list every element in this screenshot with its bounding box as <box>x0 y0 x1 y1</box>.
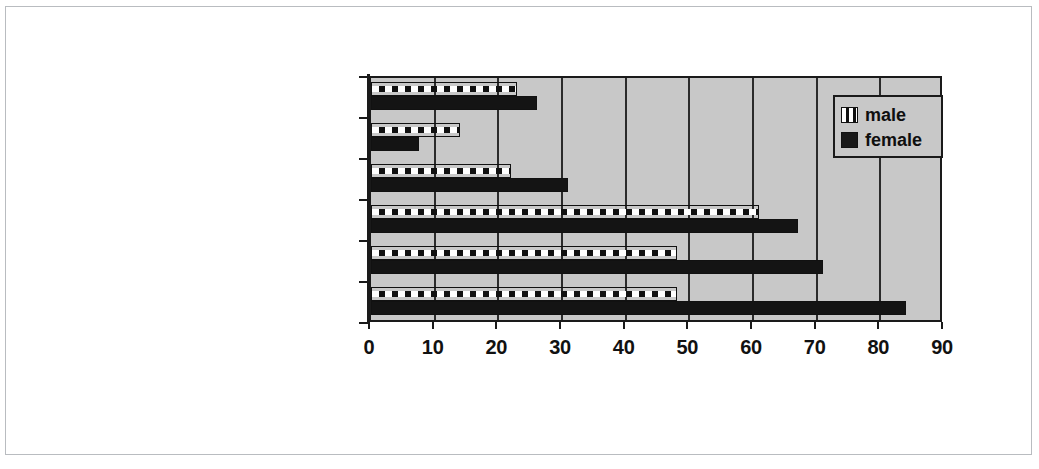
bar-male-5 <box>371 287 677 301</box>
x-tick-label-60: 60 <box>740 336 762 359</box>
y-tick-3 <box>359 199 369 201</box>
legend-swatch-female-icon <box>841 132 858 148</box>
chart-legend: male female <box>833 95 943 158</box>
gridline-50 <box>688 78 690 320</box>
bar-male-3 <box>371 205 759 219</box>
bar-female-5 <box>371 301 906 315</box>
legend-swatch-male-icon <box>841 107 858 123</box>
x-tick-label-30: 30 <box>549 336 571 359</box>
x-tick-50 <box>686 322 688 329</box>
x-tick-label-20: 20 <box>486 336 508 359</box>
bar-male-1 <box>371 123 460 137</box>
x-tick-80 <box>877 322 879 329</box>
x-tick-label-40: 40 <box>613 336 635 359</box>
bar-female-3 <box>371 219 798 233</box>
bar-female-4 <box>371 260 823 274</box>
y-tick-0 <box>359 76 369 78</box>
category-axis-labels: Aboriginal respondentsdisadvantaged yout… <box>0 0 358 469</box>
y-tick-1 <box>359 117 369 119</box>
y-tick-4 <box>359 240 369 242</box>
gridline-30 <box>561 78 563 320</box>
x-tick-90 <box>941 322 943 329</box>
bar-female-0 <box>371 96 537 110</box>
legend-entry-female: female <box>841 127 935 152</box>
x-tick-label-50: 50 <box>677 336 699 359</box>
x-tick-20 <box>495 322 497 329</box>
gridline-40 <box>625 78 627 320</box>
x-tick-label-70: 70 <box>804 336 826 359</box>
chart-screenshot: Aboriginal respondentsdisadvantaged yout… <box>0 0 1039 469</box>
x-tick-10 <box>432 322 434 329</box>
x-tick-70 <box>814 322 816 329</box>
bar-female-1 <box>371 137 419 151</box>
y-tick-5 <box>359 281 369 283</box>
y-tick-2 <box>359 158 369 160</box>
legend-label-female: female <box>865 131 922 149</box>
y-tick-end <box>359 322 369 324</box>
x-tick-label-10: 10 <box>422 336 444 359</box>
bar-male-2 <box>371 164 511 178</box>
gridline-10 <box>434 78 436 320</box>
legend-label-male: male <box>865 106 906 124</box>
bar-male-0 <box>371 82 517 96</box>
x-tick-30 <box>559 322 561 329</box>
legend-entry-male: male <box>841 102 935 127</box>
gridline-60 <box>752 78 754 320</box>
x-tick-60 <box>750 322 752 329</box>
x-tick-40 <box>623 322 625 329</box>
gridline-70 <box>816 78 818 320</box>
x-tick-label-0: 0 <box>364 336 375 359</box>
bar-male-4 <box>371 246 677 260</box>
x-tick-label-90: 90 <box>931 336 953 359</box>
x-tick-label-80: 80 <box>868 336 890 359</box>
gridline-20 <box>497 78 499 320</box>
bar-female-2 <box>371 178 568 192</box>
